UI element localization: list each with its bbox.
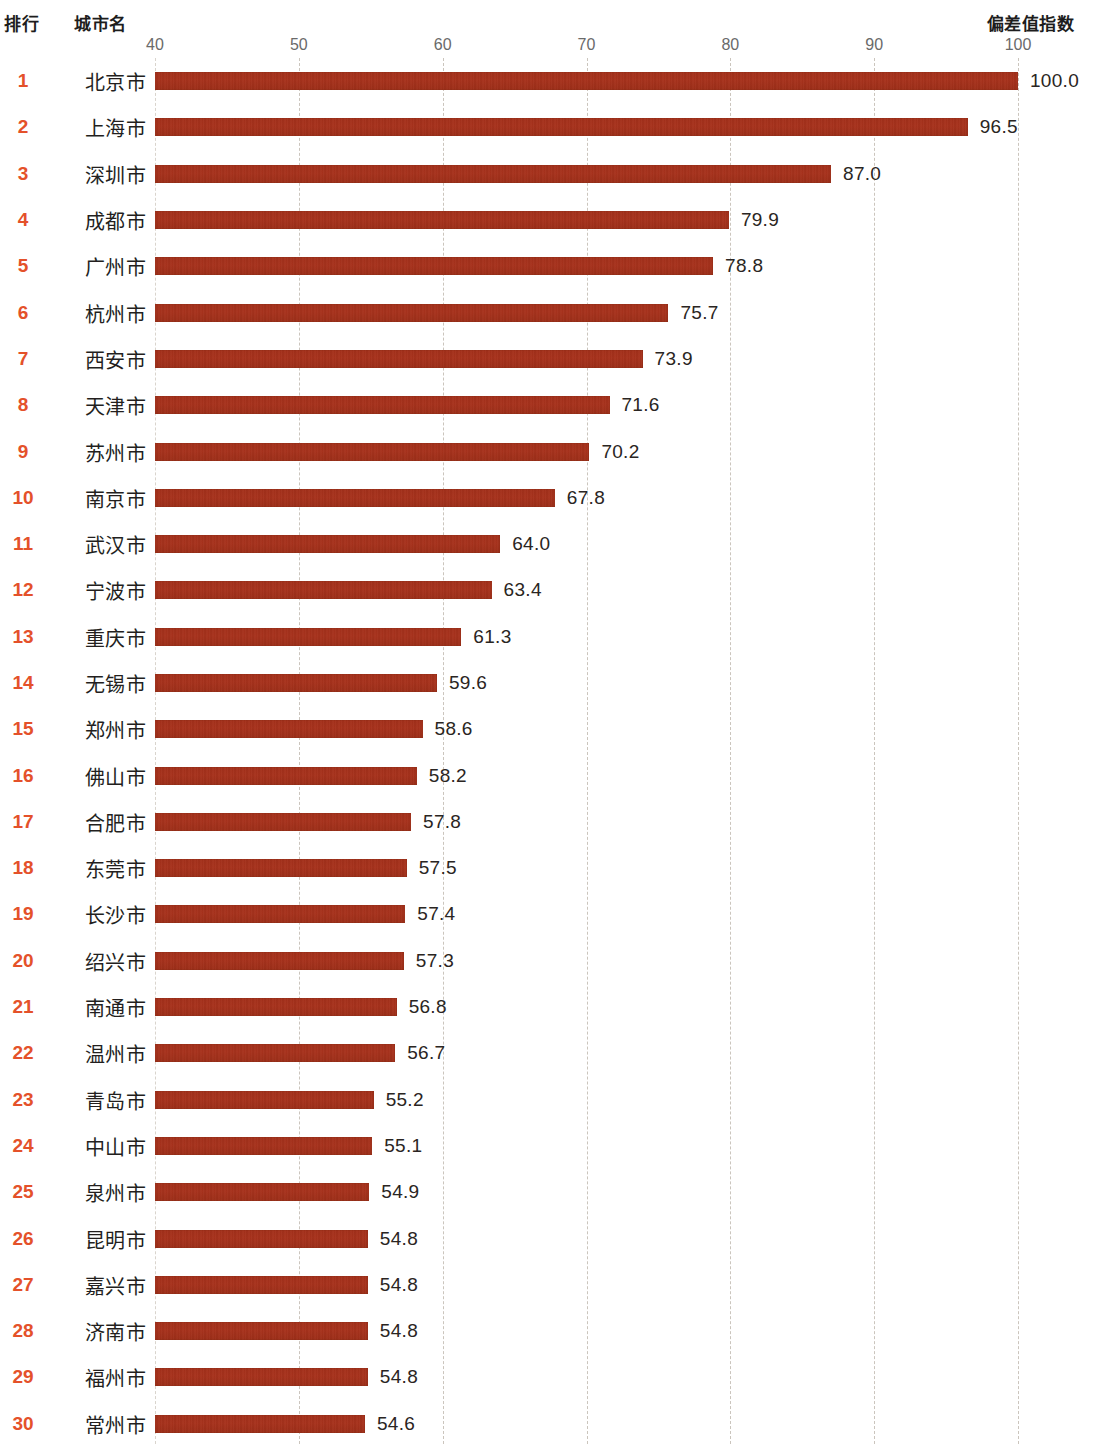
table-row[interactable]: 27嘉兴市54.8	[0, 1262, 1102, 1308]
value-bar[interactable]	[155, 118, 968, 136]
table-row[interactable]: 10南京市67.8	[0, 475, 1102, 521]
table-row[interactable]: 3深圳市87.0	[0, 151, 1102, 197]
rank-number: 14	[0, 672, 46, 694]
x-axis-tick-80: 80	[721, 36, 739, 54]
city-name-label: 长沙市	[56, 900, 146, 929]
table-row[interactable]: 14无锡市59.6	[0, 660, 1102, 706]
city-name-label: 郑州市	[56, 715, 146, 744]
value-bar[interactable]	[155, 1183, 369, 1201]
table-row[interactable]: 9苏州市70.2	[0, 428, 1102, 474]
value-bar[interactable]	[155, 674, 437, 692]
rank-number: 5	[0, 255, 46, 277]
table-row[interactable]: 19长沙市57.4	[0, 891, 1102, 937]
value-bar[interactable]	[155, 304, 668, 322]
value-bar[interactable]	[155, 1137, 372, 1155]
city-name-label: 佛山市	[56, 761, 146, 790]
city-name-label: 北京市	[56, 67, 146, 96]
table-row[interactable]: 22温州市56.7	[0, 1030, 1102, 1076]
table-row[interactable]: 29福州市54.8	[0, 1354, 1102, 1400]
value-bar[interactable]	[155, 535, 500, 553]
table-row[interactable]: 18东莞市57.5	[0, 845, 1102, 891]
value-bar[interactable]	[155, 489, 555, 507]
rank-number: 19	[0, 903, 46, 925]
bar-container	[155, 1091, 374, 1109]
x-axis-tick-100: 100	[1005, 36, 1032, 54]
value-bar[interactable]	[155, 813, 411, 831]
bar-container	[155, 118, 968, 136]
value-label: 59.6	[449, 672, 487, 694]
table-row[interactable]: 7西安市73.9	[0, 336, 1102, 382]
value-bar[interactable]	[155, 998, 397, 1016]
bar-container	[155, 1137, 372, 1155]
bar-container	[155, 257, 713, 275]
value-bar[interactable]	[155, 767, 417, 785]
value-bar[interactable]	[155, 628, 461, 646]
chart-rows: 1北京市100.02上海市96.53深圳市87.04成都市79.95广州市78.…	[0, 58, 1102, 1444]
table-row[interactable]: 1北京市100.0	[0, 58, 1102, 104]
value-bar[interactable]	[155, 396, 610, 414]
value-label: 56.8	[409, 996, 447, 1018]
table-row[interactable]: 2上海市96.5	[0, 104, 1102, 150]
value-bar[interactable]	[155, 1230, 368, 1248]
rank-number: 28	[0, 1320, 46, 1342]
table-row[interactable]: 16佛山市58.2	[0, 752, 1102, 798]
rank-number: 27	[0, 1274, 46, 1296]
table-row[interactable]: 6杭州市75.7	[0, 289, 1102, 335]
value-bar[interactable]	[155, 720, 423, 738]
value-bar[interactable]	[155, 581, 492, 599]
value-bar[interactable]	[155, 859, 407, 877]
rank-number: 12	[0, 579, 46, 601]
value-bar[interactable]	[155, 211, 729, 229]
table-row[interactable]: 15郑州市58.6	[0, 706, 1102, 752]
bar-container	[155, 581, 492, 599]
rank-number: 9	[0, 441, 46, 463]
column-header-city: 城市名	[74, 10, 127, 35]
value-bar[interactable]	[155, 905, 405, 923]
bar-container	[155, 1230, 368, 1248]
value-bar[interactable]	[155, 257, 713, 275]
table-row[interactable]: 24中山市55.1	[0, 1123, 1102, 1169]
table-row[interactable]: 11武汉市64.0	[0, 521, 1102, 567]
value-bar[interactable]	[155, 1322, 368, 1340]
value-bar[interactable]	[155, 1415, 365, 1433]
table-row[interactable]: 12宁波市63.4	[0, 567, 1102, 613]
rank-number: 10	[0, 487, 46, 509]
table-row[interactable]: 20绍兴市57.3	[0, 938, 1102, 984]
value-bar[interactable]	[155, 1044, 395, 1062]
bar-container	[155, 535, 500, 553]
bar-container	[155, 998, 397, 1016]
bar-container	[155, 165, 831, 183]
table-row[interactable]: 21南通市56.8	[0, 984, 1102, 1030]
value-label: 55.1	[384, 1135, 422, 1157]
table-row[interactable]: 5广州市78.8	[0, 243, 1102, 289]
x-axis-tick-70: 70	[578, 36, 596, 54]
value-bar[interactable]	[155, 1091, 374, 1109]
city-name-label: 深圳市	[56, 159, 146, 188]
value-bar[interactable]	[155, 1276, 368, 1294]
value-bar[interactable]	[155, 952, 404, 970]
table-row[interactable]: 13重庆市61.3	[0, 614, 1102, 660]
value-bar[interactable]	[155, 350, 643, 368]
city-name-label: 宁波市	[56, 576, 146, 605]
rank-number: 11	[0, 533, 46, 555]
table-row[interactable]: 4成都市79.9	[0, 197, 1102, 243]
table-row[interactable]: 28济南市54.8	[0, 1308, 1102, 1354]
value-bar[interactable]	[155, 72, 1018, 90]
city-name-label: 中山市	[56, 1131, 146, 1160]
table-row[interactable]: 30常州市54.6	[0, 1401, 1102, 1444]
table-row[interactable]: 25泉州市54.9	[0, 1169, 1102, 1215]
x-axis-tick-60: 60	[434, 36, 452, 54]
city-name-label: 东莞市	[56, 854, 146, 883]
table-row[interactable]: 17合肥市57.8	[0, 799, 1102, 845]
value-label: 64.0	[512, 533, 550, 555]
city-name-label: 广州市	[56, 252, 146, 281]
table-row[interactable]: 23青岛市55.2	[0, 1077, 1102, 1123]
value-label: 57.5	[419, 857, 457, 879]
table-row[interactable]: 8天津市71.6	[0, 382, 1102, 428]
value-bar[interactable]	[155, 165, 831, 183]
table-row[interactable]: 26昆明市54.8	[0, 1215, 1102, 1261]
value-bar[interactable]	[155, 1368, 368, 1386]
city-name-label: 温州市	[56, 1039, 146, 1068]
value-label: 58.6	[435, 718, 473, 740]
value-bar[interactable]	[155, 443, 589, 461]
